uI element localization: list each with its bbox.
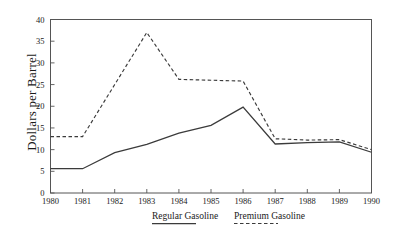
- chart-figure: Dollars per Barrel 0510152025303540 1980…: [0, 0, 395, 234]
- x-tick-label: 1987: [267, 196, 284, 206]
- x-tick-label: 1980: [42, 196, 59, 206]
- x-tick-label: 1985: [203, 196, 220, 206]
- x-tick-label: 1981: [74, 196, 91, 206]
- x-tick-label: 1988: [299, 196, 316, 206]
- y-tick-label: 5: [40, 166, 44, 176]
- x-tick-label: 1982: [106, 196, 123, 206]
- y-axis-title: Dollars per Barrel: [24, 17, 40, 187]
- x-tick-label: 1989: [331, 196, 348, 206]
- legend-label-regular-gasoline: Regular Gasoline: [152, 211, 218, 221]
- line-chart: 0510152025303540 19801981198219831984198…: [0, 0, 395, 234]
- legend-label-premium-gasoline: Premium Gasoline: [234, 211, 305, 221]
- x-tick-label: 1986: [235, 196, 252, 206]
- x-tick-label: 1990: [363, 196, 380, 206]
- x-tick-label: 1984: [170, 196, 188, 206]
- x-tick-label: 1983: [138, 196, 155, 206]
